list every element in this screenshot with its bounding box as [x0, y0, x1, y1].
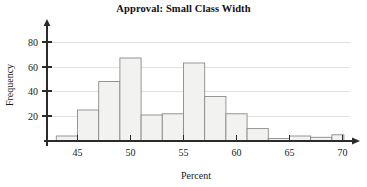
y-tick-label-group: 20 40 60 80 — [28, 37, 38, 122]
x-axis-arrow — [352, 138, 360, 145]
histogram-bar — [120, 58, 141, 141]
histogram-bar — [184, 63, 205, 141]
x-tick-label: 70 — [338, 147, 348, 158]
y-tick-label: 20 — [28, 111, 38, 122]
histogram-bar — [162, 114, 183, 141]
histogram-figure: Approval: Small Class Width — [0, 0, 367, 187]
histogram-bar — [99, 82, 120, 142]
x-tick-label: 65 — [285, 147, 295, 158]
x-tick-label: 50 — [126, 147, 136, 158]
x-tick-label: 45 — [73, 147, 83, 158]
plot-area: 45 50 55 60 65 70 20 40 60 80 Percent Fr… — [0, 0, 367, 187]
histogram-bar — [205, 97, 226, 142]
y-tick-label: 40 — [28, 86, 38, 97]
histogram-bar — [290, 136, 311, 141]
y-axis-arrow — [44, 19, 51, 26]
histogram-bar — [78, 110, 99, 141]
histogram-bar — [141, 115, 162, 141]
histogram-bar — [247, 129, 268, 141]
x-tick-label: 55 — [179, 147, 189, 158]
y-tick-label: 60 — [28, 62, 38, 73]
y-tick-label: 80 — [28, 37, 38, 48]
x-tick-label-group: 45 50 55 60 65 70 — [73, 147, 348, 158]
histogram-bar — [56, 136, 77, 141]
bar-group — [56, 58, 344, 141]
histogram-bar — [311, 137, 332, 141]
x-axis-title: Percent — [181, 170, 211, 181]
x-tick-label: 60 — [232, 147, 242, 158]
y-axis-title: Frequency — [4, 64, 15, 106]
